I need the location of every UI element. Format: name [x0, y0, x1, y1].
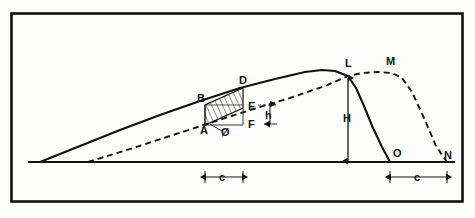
label-c-left: c	[219, 171, 225, 183]
figure-canvas: A B D E F Ø h H L M O N c c	[0, 0, 475, 218]
label-B: B	[197, 92, 205, 104]
label-O: O	[393, 147, 402, 159]
label-D: D	[239, 74, 247, 86]
label-H: H	[343, 112, 351, 124]
label-L: L	[345, 57, 352, 69]
diagram-svg: A B D E F Ø h H L M O N c c	[0, 0, 475, 218]
label-h: h	[265, 109, 272, 121]
label-angle-phi: Ø	[221, 126, 230, 138]
label-E: E	[248, 100, 255, 112]
label-N: N	[444, 149, 452, 161]
label-M: M	[386, 55, 395, 67]
label-F: F	[248, 118, 255, 130]
label-A: A	[200, 124, 208, 136]
label-c-right: c	[414, 171, 420, 183]
